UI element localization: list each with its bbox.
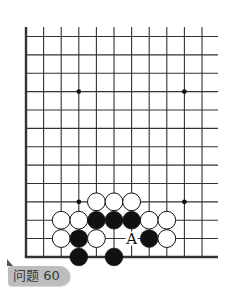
go-board: A xyxy=(0,0,242,303)
black-stone xyxy=(105,211,123,229)
white-stone xyxy=(105,193,123,211)
problem-number-label: 问题 60 xyxy=(8,266,70,286)
black-stone xyxy=(140,230,158,248)
stones xyxy=(52,193,175,266)
white-stone xyxy=(52,211,70,229)
star-point xyxy=(182,199,187,204)
white-stone xyxy=(52,230,70,248)
star-point xyxy=(76,89,81,94)
white-stone xyxy=(123,193,141,211)
star-point xyxy=(182,89,187,94)
white-stone xyxy=(88,230,106,248)
white-stone xyxy=(140,211,158,229)
markers: A xyxy=(125,230,137,248)
white-stone xyxy=(88,193,106,211)
label-corner-mark xyxy=(7,259,13,266)
black-stone xyxy=(88,211,106,229)
white-stone xyxy=(158,211,176,229)
white-stone xyxy=(70,211,88,229)
marker-label-a: A xyxy=(125,230,137,248)
black-stone xyxy=(105,248,123,266)
black-stone xyxy=(70,248,88,266)
black-stone xyxy=(70,230,88,248)
white-stone xyxy=(158,230,176,248)
black-stone xyxy=(123,211,141,229)
star-point xyxy=(76,199,81,204)
